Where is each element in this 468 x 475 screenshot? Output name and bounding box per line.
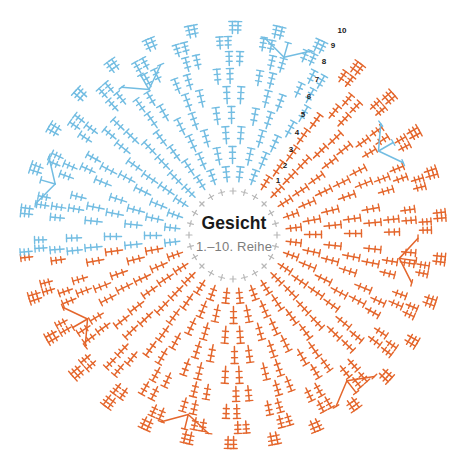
stitch-cap xyxy=(237,167,244,168)
stitch-crossbar xyxy=(40,202,41,208)
stitch-crossbar xyxy=(29,206,30,212)
stitch-crossbar xyxy=(425,262,426,268)
stitch-crossbar xyxy=(205,388,211,389)
stitch-crossbar xyxy=(409,260,410,266)
stitch-cap xyxy=(247,362,254,363)
stitch-crossbar xyxy=(440,259,441,265)
stitch-crossbar xyxy=(215,79,221,80)
stitch-cap xyxy=(238,127,245,128)
stitch-crossbar xyxy=(260,42,266,43)
stitch-cap xyxy=(237,343,244,344)
stitch-cap xyxy=(222,167,229,168)
stitch-crossbar xyxy=(61,257,62,263)
stitch-crossbar xyxy=(246,350,252,351)
stitch-crossbar xyxy=(237,298,243,299)
stitch-crossbar xyxy=(79,207,80,213)
stitch-crossbar xyxy=(237,172,243,173)
stitch-crossbar xyxy=(25,205,26,211)
stitch-crossbar xyxy=(260,47,266,48)
page-subtitle: 1.–10. Reihe xyxy=(0,239,468,254)
crochet-diagram-svg xyxy=(0,0,468,475)
crochet-chart-canvas: Gesicht 1.–10. Reihe 12345678910 xyxy=(0,0,468,475)
stitch-cap xyxy=(221,343,228,344)
stitch-crossbar xyxy=(247,356,253,357)
stitch-crossbar xyxy=(236,177,242,178)
page-title: Gesicht xyxy=(0,213,468,234)
stitch-crossbar xyxy=(223,172,229,173)
stitch-crossbar xyxy=(245,390,251,391)
stitch-crossbar xyxy=(392,258,393,264)
stitch-crossbar xyxy=(200,422,206,423)
stitch-cap xyxy=(444,259,445,266)
stitch-stem xyxy=(219,37,220,49)
stitch-crossbar xyxy=(256,75,262,76)
stitch-cap xyxy=(222,127,229,128)
stitch-crossbar xyxy=(436,258,437,264)
stitch-crossbar xyxy=(73,206,74,212)
stitch-stem xyxy=(240,52,241,66)
stitch-cap xyxy=(246,400,253,401)
stitch-crossbar xyxy=(224,292,230,293)
stitch-stem xyxy=(239,366,240,383)
stitch-cap xyxy=(212,107,219,108)
stitch-stem xyxy=(240,87,241,104)
stitch-crossbar xyxy=(56,257,57,263)
stitch-crossbar xyxy=(204,394,210,395)
stitch-stem xyxy=(226,404,227,418)
stitch-crossbar xyxy=(213,113,219,114)
stitch-stem xyxy=(246,421,247,433)
stitch-stem xyxy=(226,87,227,104)
stitch-crossbar xyxy=(56,204,57,210)
stitch-crossbar xyxy=(214,119,220,120)
stitch-crossbar xyxy=(246,395,252,396)
stitch-crossbar xyxy=(409,207,410,213)
stitch-cap xyxy=(21,204,22,211)
stitch-cap xyxy=(237,303,244,304)
stitch-crossbar xyxy=(61,204,62,210)
stitch-crossbar xyxy=(45,202,46,208)
cluster-cap xyxy=(416,258,417,264)
stitch-cap xyxy=(213,69,220,70)
cluster-cap xyxy=(261,37,267,38)
stitch-crossbar xyxy=(214,74,220,75)
stitch-crossbar xyxy=(255,81,261,82)
stitch-crossbar xyxy=(404,260,405,266)
stitch-crossbar xyxy=(224,177,230,178)
cluster-cap xyxy=(205,433,211,434)
stitch-crossbar xyxy=(236,292,242,293)
stitch-crossbar xyxy=(386,257,387,263)
stitch-cap xyxy=(222,303,229,304)
stitch-crossbar xyxy=(223,298,229,299)
stitch-stem xyxy=(225,366,226,383)
stitch-crossbar xyxy=(420,262,421,268)
cluster-cap xyxy=(35,201,36,207)
